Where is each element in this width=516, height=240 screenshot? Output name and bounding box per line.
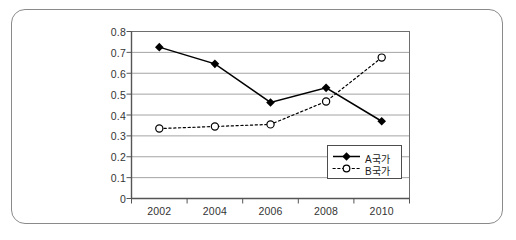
y-tick-label: 0: [92, 193, 126, 205]
y-tick-label: 0.2: [92, 151, 126, 163]
line-chart: [0, 0, 516, 240]
data-point-b: [156, 125, 163, 132]
y-tick-label: 0.1: [92, 172, 126, 184]
y-tick-label: 0.5: [92, 89, 126, 101]
y-axis-tick-marks: [127, 32, 132, 199]
y-tick-label: 0.7: [92, 47, 126, 59]
data-point-b: [378, 54, 385, 61]
y-tick-label: 0.6: [92, 68, 126, 80]
x-tick-label: 2006: [248, 205, 294, 217]
data-point-b: [267, 121, 274, 128]
legend-marker-circle-icon: [343, 165, 350, 172]
legend-label-b: B국가: [365, 163, 390, 178]
x-tick-label: 2002: [136, 205, 182, 217]
x-axis-tick-marks: [132, 199, 410, 204]
x-tick-label: 2008: [303, 205, 349, 217]
data-point-b: [323, 98, 330, 105]
y-tick-label: 0.4: [92, 110, 126, 122]
data-point-b: [211, 123, 218, 130]
y-tick-label: 0.3: [92, 130, 126, 142]
x-tick-label: 2010: [359, 205, 405, 217]
y-tick-label: 0.8: [92, 26, 126, 38]
x-tick-label: 2004: [192, 205, 238, 217]
